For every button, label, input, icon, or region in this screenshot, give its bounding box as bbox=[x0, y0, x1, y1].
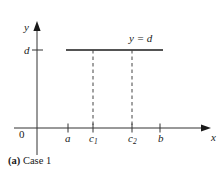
x-tick-label-c1-sub: 1 bbox=[94, 137, 98, 146]
curve-equation-label: y = d bbox=[129, 33, 152, 44]
x-tick-label-c2-sub: 2 bbox=[133, 137, 137, 146]
figure-caption-text: Case 1 bbox=[23, 155, 51, 166]
origin-label: 0 bbox=[19, 129, 25, 140]
figure-case-1: y x d 0 a c1 c2 b y = d (a) Case 1 bbox=[0, 0, 224, 175]
x-tick-label-c1: c1 bbox=[89, 133, 98, 144]
x-tick-label-c2: c2 bbox=[128, 133, 137, 144]
x-tick-label-a-base: a bbox=[65, 132, 71, 144]
y-axis-label: y bbox=[24, 22, 29, 33]
y-tick-label-d: d bbox=[24, 45, 30, 56]
x-tick-label-b: b bbox=[158, 133, 164, 144]
figure-caption: (a) Case 1 bbox=[8, 155, 51, 166]
figure-caption-tag: (a) bbox=[8, 155, 20, 166]
x-tick-label-a: a bbox=[65, 133, 71, 144]
x-axis-arrowhead bbox=[201, 124, 211, 131]
y-axis-arrowhead bbox=[33, 21, 40, 31]
x-tick-label-b-base: b bbox=[158, 132, 164, 144]
x-axis-label: x bbox=[211, 132, 216, 143]
figure-graphic bbox=[0, 0, 224, 175]
